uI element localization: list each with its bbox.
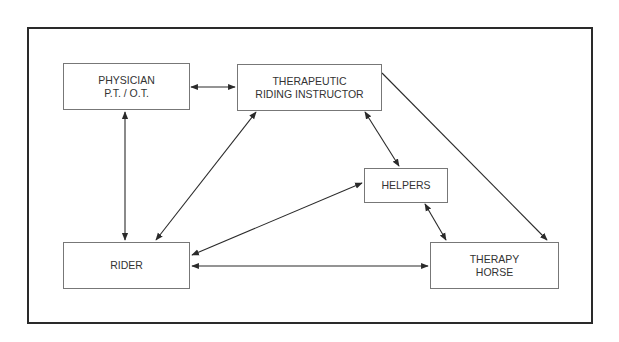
node-label: P.T. / O.T.: [104, 87, 149, 100]
edge-instructor-rider: [156, 112, 256, 240]
node-label: PHYSICIAN: [98, 74, 155, 87]
node-therapeutic-riding-instructor: THERAPEUTIC RIDING INSTRUCTOR: [237, 64, 382, 111]
edge-helpers-rider: [192, 183, 362, 255]
edge-instructor-helpers: [365, 112, 399, 166]
node-label: RIDING INSTRUCTOR: [255, 88, 363, 101]
node-label: THERAPY: [470, 253, 520, 266]
edge-helpers-horse: [425, 204, 446, 240]
node-helpers: HELPERS: [364, 168, 448, 203]
node-label: HELPERS: [381, 179, 430, 192]
node-label: THERAPEUTIC: [272, 75, 346, 88]
node-label: HORSE: [476, 266, 513, 279]
connector-lines: [0, 0, 619, 342]
edge-instructor-horse: [382, 73, 547, 240]
node-label: RIDER: [110, 259, 143, 272]
node-physician: PHYSICIAN P.T. / O.T.: [63, 63, 190, 110]
node-therapy-horse: THERAPY HORSE: [430, 242, 559, 289]
node-rider: RIDER: [63, 242, 190, 289]
